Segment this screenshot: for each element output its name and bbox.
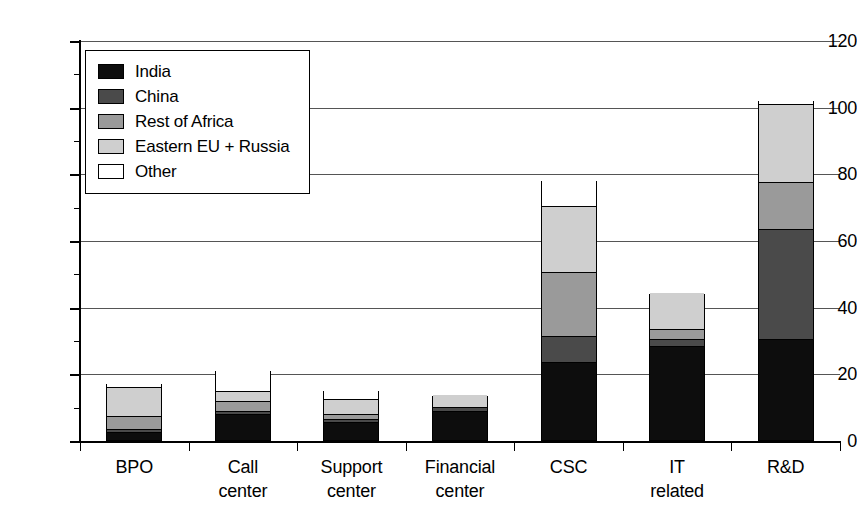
x-axis-label: Supportcenter [297, 455, 406, 503]
x-tick-mark [80, 441, 81, 451]
bar-segment [107, 433, 161, 440]
y-tick-label: 120 [795, 32, 857, 50]
bar-call-center [215, 371, 271, 441]
x-axis-label-line: related [623, 479, 732, 503]
legend-item: Eastern EU + Russia [98, 134, 299, 159]
bar-segment [324, 390, 378, 400]
x-tick-mark [406, 441, 407, 451]
legend-item-label: India [135, 63, 171, 80]
bar-segment [759, 340, 813, 440]
bar-segment [650, 340, 704, 347]
y-tick-mark [70, 374, 79, 376]
x-axis-line [79, 441, 841, 443]
bar-segment [542, 337, 596, 364]
bar-segment [216, 370, 270, 392]
x-tick-mark [840, 441, 841, 451]
legend-item: India [98, 59, 299, 84]
bar-segment [433, 395, 487, 408]
y-tick-mark [70, 308, 79, 310]
x-axis-label-line: BPO [80, 455, 189, 479]
legend-swatch-icon [98, 89, 124, 104]
legend-item-label: Other [135, 163, 177, 180]
bar-segment [324, 400, 378, 415]
x-axis-label-line: R&D [731, 455, 840, 479]
legend-item: China [98, 84, 299, 109]
bar-segment [650, 330, 704, 340]
bar-it-related [649, 294, 705, 441]
legend-swatch-icon [98, 64, 124, 79]
chart-legend: IndiaChinaRest of AfricaEastern EU + Rus… [85, 50, 310, 194]
x-axis-label-line: Support [297, 455, 406, 479]
bar-segment [216, 392, 270, 402]
bar-segment [542, 180, 596, 207]
bar-segment [542, 207, 596, 274]
legend-swatch-icon [98, 114, 124, 129]
x-tick-mark [623, 441, 624, 451]
x-axis-label-line: center [297, 479, 406, 503]
legend-item-label: China [135, 88, 178, 105]
x-axis-label-line: Call [189, 455, 298, 479]
bar-segment [216, 415, 270, 440]
legend-item: Rest of Africa [98, 109, 299, 134]
x-axis-label-line: center [189, 479, 298, 503]
bar-support-center [323, 391, 379, 441]
x-tick-mark [297, 441, 298, 451]
legend-item-label: Rest of Africa [135, 113, 233, 130]
legend-swatch-icon [98, 139, 124, 154]
y-tick-minor [74, 274, 79, 275]
bar-r-d [758, 101, 814, 441]
y-tick-minor [74, 74, 79, 75]
bar-segment [216, 402, 270, 412]
bar-segment [650, 293, 704, 330]
y-tick-mark [70, 174, 79, 176]
x-axis-label-line: Financial [406, 455, 515, 479]
y-tick-label: 20 [795, 365, 857, 383]
x-axis-label: Financialcenter [406, 455, 515, 503]
y-tick-mark [70, 441, 79, 443]
y-tick-label: 0 [795, 432, 857, 450]
y-tick-label: 40 [795, 299, 857, 317]
y-tick-mark [70, 108, 79, 110]
y-tick-minor [74, 408, 79, 409]
y-axis-line [79, 40, 81, 442]
y-tick-label: 100 [795, 99, 857, 117]
x-axis-label: ITrelated [623, 455, 732, 503]
bar-segment [542, 273, 596, 336]
bar-bpo [106, 384, 162, 441]
bar-segment [650, 347, 704, 440]
y-tick-mark [70, 241, 79, 243]
x-axis-label: CSC [514, 455, 623, 479]
bar-csc [541, 181, 597, 441]
gridline-120 [80, 41, 840, 42]
y-tick-minor [74, 208, 79, 209]
x-tick-mark [731, 441, 732, 451]
bar-segment [542, 363, 596, 440]
x-axis-label: BPO [80, 455, 189, 479]
legend-item-label: Eastern EU + Russia [135, 138, 289, 155]
bar-segment [324, 423, 378, 440]
y-tick-mark [70, 41, 79, 43]
x-axis-label: Callcenter [189, 455, 298, 503]
stacked-bar-chart: IndiaChinaRest of AfricaEastern EU + Rus… [0, 0, 857, 522]
y-tick-minor [74, 141, 79, 142]
x-tick-mark [189, 441, 190, 451]
x-axis-label-line: CSC [514, 455, 623, 479]
x-axis-label: R&D [731, 455, 840, 479]
legend-item: Other [98, 159, 299, 184]
gridline-60 [80, 241, 840, 242]
legend-swatch-icon [98, 164, 124, 179]
bar-segment [107, 417, 161, 430]
bar-segment [433, 412, 487, 440]
x-axis-label-line: center [406, 479, 515, 503]
y-tick-label: 80 [795, 165, 857, 183]
bar-segment [107, 388, 161, 416]
y-tick-minor [74, 341, 79, 342]
x-axis-label-line: IT [623, 455, 732, 479]
gridline-20 [80, 374, 840, 375]
y-tick-label: 60 [795, 232, 857, 250]
bar-segment [759, 183, 813, 230]
gridline-40 [80, 308, 840, 309]
bar-financial-center [432, 396, 488, 441]
x-tick-mark [514, 441, 515, 451]
